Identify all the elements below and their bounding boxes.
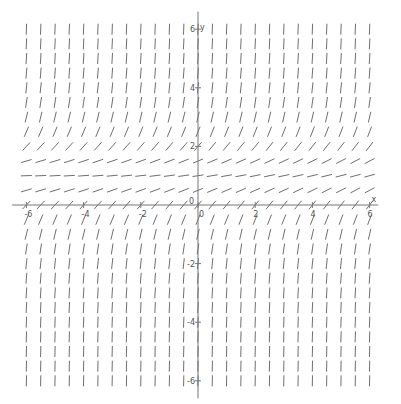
slope-segment	[153, 127, 157, 137]
slope-segment	[212, 273, 213, 284]
slope-segment	[267, 127, 271, 137]
slope-segment	[369, 258, 370, 269]
slope-segment	[336, 159, 346, 164]
slope-segment	[298, 38, 299, 49]
slope-segment	[241, 53, 242, 64]
slope-segment	[96, 215, 100, 225]
slope-segment	[51, 142, 58, 150]
slope-segment	[355, 68, 356, 79]
slope-segment	[107, 159, 117, 163]
slope-segment	[126, 68, 127, 79]
slope-segment	[369, 53, 370, 64]
slope-segment	[312, 53, 313, 64]
slope-segment	[240, 244, 242, 255]
slope-segment	[296, 215, 300, 225]
slope-segment	[267, 215, 271, 225]
slope-segment	[121, 159, 131, 163]
slope-segment	[252, 142, 259, 151]
slope-segment	[39, 229, 42, 240]
slope-segment	[98, 53, 99, 64]
slope-segment	[151, 142, 158, 150]
slope-segment	[255, 273, 256, 284]
slope-segment	[164, 175, 175, 176]
slope-segment	[183, 302, 184, 313]
slope-segment	[369, 302, 370, 313]
slope-segment	[265, 188, 275, 193]
slope-segment	[350, 174, 361, 177]
slope-segment	[311, 229, 313, 240]
x-tick-label: -2	[139, 210, 147, 219]
x-tick-label: 2	[253, 210, 258, 219]
slope-segment	[211, 112, 214, 123]
slope-segment	[254, 97, 256, 108]
x-tick-label: -6	[24, 210, 32, 219]
slope-segment	[255, 82, 256, 93]
slope-segment	[140, 112, 143, 123]
slope-segment	[183, 82, 184, 93]
slope-segment	[269, 258, 270, 269]
slope-segment	[309, 142, 316, 151]
slope-segment	[69, 287, 70, 298]
slope-segment	[40, 97, 42, 108]
slope-segment	[269, 273, 270, 284]
slope-segment	[210, 215, 214, 225]
slope-segment	[269, 302, 270, 313]
slope-segment	[353, 127, 357, 137]
slope-segment	[338, 142, 345, 151]
slope-segment	[183, 273, 184, 284]
slope-segment	[255, 53, 256, 64]
slope-segment	[54, 258, 55, 269]
slope-segment	[350, 188, 360, 193]
slope-segment	[225, 127, 229, 137]
slope-segment	[365, 188, 375, 193]
slope-segment	[154, 244, 156, 255]
slope-segment	[166, 142, 173, 150]
slope-segment	[26, 38, 27, 49]
slope-segment	[222, 159, 232, 163]
slope-segment	[55, 68, 56, 79]
slope-segment	[155, 82, 156, 93]
slope-segment	[269, 244, 271, 255]
slope-segment	[80, 142, 87, 150]
slope-segment	[81, 127, 85, 137]
slope-segment	[241, 287, 242, 298]
slope-segment	[69, 302, 70, 313]
slope-segment	[82, 112, 85, 123]
slope-segment	[279, 159, 289, 164]
slope-segment	[154, 112, 157, 123]
slope-segment	[240, 97, 242, 108]
slope-segment	[236, 188, 246, 192]
slope-segment	[355, 82, 356, 93]
slope-segment	[254, 112, 256, 123]
slope-segment	[241, 38, 242, 49]
slope-segment	[155, 38, 156, 49]
slope-segment	[169, 68, 170, 79]
slope-segment	[226, 302, 227, 313]
slope-segment	[25, 229, 28, 240]
slope-segment	[137, 142, 144, 150]
slope-segment	[69, 38, 70, 49]
slope-segment	[307, 159, 317, 164]
slope-segment	[50, 189, 61, 192]
slope-segment	[83, 258, 84, 269]
slope-segment	[40, 273, 41, 284]
slope-segment	[69, 258, 70, 269]
slope-segment	[126, 82, 127, 93]
slope-segment	[78, 159, 88, 162]
slope-segment	[112, 53, 113, 64]
slope-segment	[212, 82, 213, 93]
slope-segment	[26, 287, 27, 298]
slope-segment	[298, 82, 299, 93]
slope-segment	[339, 215, 343, 225]
slope-segment	[312, 302, 313, 313]
slope-segment	[182, 112, 185, 123]
slope-segment	[111, 97, 113, 108]
slope-segment	[211, 244, 213, 255]
slope-segment	[78, 175, 89, 176]
slope-segment	[83, 97, 85, 108]
slope-segment	[35, 159, 46, 162]
slope-segment	[93, 189, 103, 193]
slope-segment	[268, 112, 270, 123]
slope-segment	[369, 68, 370, 79]
slope-segment	[298, 302, 299, 313]
